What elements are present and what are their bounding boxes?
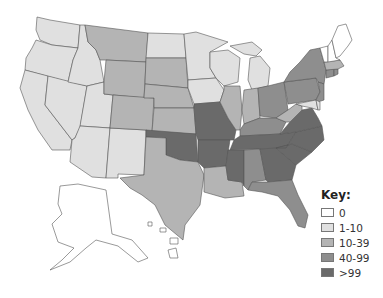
legend-label: 40-99 xyxy=(339,252,370,264)
state-CT xyxy=(326,69,334,78)
legend-label: 10-39 xyxy=(339,237,370,249)
state-SD xyxy=(145,58,188,88)
legend-title: Key: xyxy=(321,188,381,202)
legend-item-1-10: 1-10 xyxy=(321,220,381,235)
state-WY xyxy=(104,60,146,98)
state-IA xyxy=(188,78,224,104)
state-ND xyxy=(146,33,186,58)
legend-swatch xyxy=(321,238,334,247)
legend-label: >99 xyxy=(339,267,361,279)
state-FL xyxy=(248,180,308,228)
state-NM xyxy=(106,128,146,178)
legend-item-0: 0 xyxy=(321,205,381,220)
legend-swatch xyxy=(321,268,334,277)
map-legend: Key: 0 1-10 10-39 40-99 >99 xyxy=(321,188,381,280)
legend-swatch xyxy=(321,208,334,217)
state-OH xyxy=(258,82,288,118)
legend-item-10-39: 10-39 xyxy=(321,235,381,250)
state-NY xyxy=(284,48,326,84)
legend-swatch xyxy=(321,253,334,262)
state-IN xyxy=(242,88,260,124)
legend-swatch xyxy=(321,223,334,232)
legend-item-over-99: >99 xyxy=(321,265,381,280)
legend-label: 0 xyxy=(339,207,346,219)
state-AK xyxy=(50,184,148,270)
legend-label: 1-10 xyxy=(339,222,363,234)
state-AR xyxy=(198,140,230,168)
legend-item-40-99: 40-99 xyxy=(321,250,381,265)
state-ME xyxy=(332,24,352,58)
state-KS xyxy=(152,108,196,134)
state-CO xyxy=(110,95,154,132)
state-RI xyxy=(334,69,338,76)
